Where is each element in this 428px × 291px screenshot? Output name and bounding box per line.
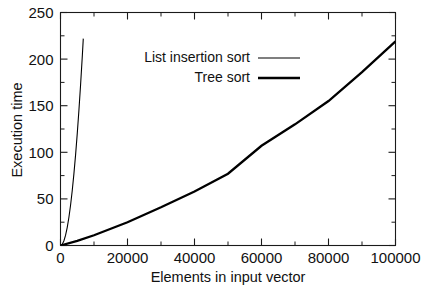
execution-time-chart: 020000400006000080000100000 050100150200… xyxy=(0,0,428,291)
x-tick-label: 0 xyxy=(56,249,64,266)
x-tick-label: 60000 xyxy=(241,249,283,266)
x-axis-tick-labels: 020000400006000080000100000 xyxy=(56,249,420,266)
y-axis-title: Execution time xyxy=(9,82,25,177)
y-tick-label: 50 xyxy=(37,190,54,207)
y-axis-tick-labels: 050100150200250 xyxy=(28,4,53,254)
y-tick-label: 200 xyxy=(28,51,53,68)
y-tick-label: 100 xyxy=(28,144,53,161)
x-tick-label: 100000 xyxy=(370,249,420,266)
x-tick-label: 40000 xyxy=(174,249,216,266)
series-line-list-insertion-sort xyxy=(61,39,84,246)
y-tick-label: 0 xyxy=(45,237,53,254)
legend-label-tree-sort: Tree sort xyxy=(195,69,251,85)
y-axis-ticks xyxy=(61,13,396,246)
y-tick-label: 150 xyxy=(28,97,53,114)
chart-container: 020000400006000080000100000 050100150200… xyxy=(0,0,428,291)
x-axis-ticks xyxy=(61,13,396,246)
plot-frame xyxy=(61,13,396,246)
y-tick-label: 250 xyxy=(28,4,53,21)
legend-label-list-insertion-sort: List insertion sort xyxy=(144,49,250,65)
chart-legend: List insertion sortTree sort xyxy=(144,49,300,85)
x-tick-label: 80000 xyxy=(308,249,350,266)
x-tick-label: 20000 xyxy=(107,249,149,266)
x-axis-title: Elements in input vector xyxy=(151,269,306,285)
